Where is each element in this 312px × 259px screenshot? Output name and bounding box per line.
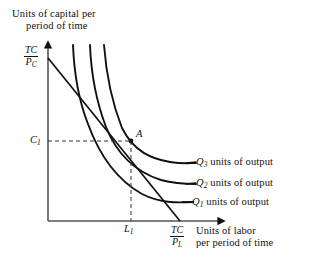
leader-line-q2 (186, 183, 196, 184)
isocost-line (48, 58, 180, 221)
isoquant-isocost-figure: Units of capital per period of time Unit… (0, 0, 312, 259)
capital-tick-label: C1 (30, 134, 41, 147)
tangency-point-label: A (136, 128, 142, 140)
y-axis-caption-line1: Units of capital per (12, 8, 96, 19)
tangency-point-marker (129, 139, 134, 144)
x-axis-caption: Units of labor per period of time (196, 225, 273, 249)
y-axis-caption-line2: period of time (12, 20, 96, 32)
x-intercept-label: TC PL (170, 225, 184, 249)
x-axis-caption-line2: per period of time (196, 237, 273, 249)
leader-line-q3 (186, 162, 196, 163)
x-intercept-denominator: PL (170, 237, 184, 249)
isoquant-symbol-q2: Q2 (196, 177, 208, 188)
isoquant-caption-q3: units of output (210, 156, 273, 167)
isoquant-label-q2: Q2 units of output (196, 177, 273, 190)
x-axis-caption-line1: Units of labor (196, 225, 256, 236)
isoquant-label-q1: Q1 units of output (192, 196, 269, 209)
isoquant-symbol-q3: Q3 (196, 156, 208, 167)
isoquant-caption-q2: units of output (210, 177, 273, 188)
x-intercept-numerator: TC (170, 225, 184, 237)
isoquant-label-q3: Q3 units of output (196, 156, 273, 169)
y-axis-caption: Units of capital per period of time (12, 8, 96, 32)
y-intercept-denominator: PC (24, 57, 38, 69)
isoquant-caption-q1: units of output (206, 196, 269, 207)
labor-tick-label: L1 (124, 223, 134, 236)
isoquant-symbol-q1: Q1 (192, 196, 204, 207)
plot-canvas (0, 0, 312, 259)
y-intercept-label: TC PC (24, 45, 38, 69)
y-intercept-numerator: TC (24, 45, 38, 57)
